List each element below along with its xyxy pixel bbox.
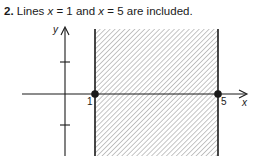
x-tick-label-1: 1: [87, 96, 93, 107]
region-graph: [0, 0, 265, 168]
shaded-region: [95, 29, 218, 156]
x-tick-label-5: 5: [221, 96, 227, 107]
x-axis-label: x: [242, 97, 247, 108]
y-axis-label: y: [53, 24, 58, 35]
